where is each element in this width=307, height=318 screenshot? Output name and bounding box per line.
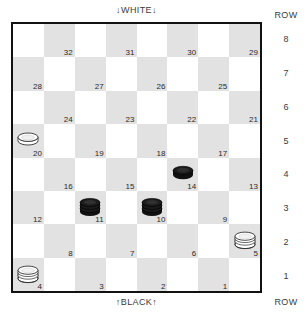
board-square-30[interactable]: 30 — [167, 24, 198, 57]
board-square-light — [198, 24, 229, 57]
board-square-light — [229, 124, 260, 157]
board-square-16[interactable]: 16 — [44, 158, 75, 191]
board-square-light — [13, 224, 44, 257]
white-king-piece[interactable] — [233, 230, 257, 248]
checkers-board[interactable]: 3231302928272625242322212019181716151413… — [11, 22, 262, 293]
square-number: 2 — [161, 282, 165, 291]
board-square-26[interactable]: 26 — [137, 57, 168, 90]
board-square-light — [75, 91, 106, 124]
board-square-3[interactable]: 3 — [75, 258, 106, 291]
square-number: 12 — [33, 215, 42, 224]
square-number: 6 — [192, 249, 196, 258]
square-number: 9 — [223, 215, 227, 224]
board-square-light — [167, 191, 198, 224]
board-square-light — [167, 124, 198, 157]
board-square-light — [44, 191, 75, 224]
board-square-light — [75, 24, 106, 57]
square-number: 27 — [95, 82, 104, 91]
white-king-piece[interactable] — [16, 264, 40, 282]
row-header-top: ROW — [268, 10, 304, 20]
board-square-light — [13, 158, 44, 191]
square-number: 22 — [187, 115, 196, 124]
board-square-light — [229, 191, 260, 224]
checkers-diagram: ↓WHITE↓ ROW 3231302928272625242322212019… — [0, 0, 307, 318]
board-square-5[interactable]: 5 — [229, 224, 260, 257]
row-label-4: 4 — [268, 158, 304, 192]
board-square-6[interactable]: 6 — [167, 224, 198, 257]
board-square-19[interactable]: 19 — [75, 124, 106, 157]
board-square-14[interactable]: 14 — [167, 158, 198, 191]
square-number: 28 — [33, 82, 42, 91]
row-label-5: 5 — [268, 124, 304, 158]
board-square-12[interactable]: 12 — [13, 191, 44, 224]
board-square-light — [137, 158, 168, 191]
board-square-9[interactable]: 9 — [198, 191, 229, 224]
square-number: 17 — [218, 149, 227, 158]
board-square-light — [106, 191, 137, 224]
board-square-light — [75, 158, 106, 191]
board-square-light — [44, 258, 75, 291]
row-label-8: 8 — [268, 22, 304, 56]
row-label-2: 2 — [268, 225, 304, 259]
board-square-light — [167, 57, 198, 90]
board-square-20[interactable]: 20 — [13, 124, 44, 157]
board-square-light — [106, 124, 137, 157]
square-number: 15 — [126, 182, 135, 191]
board-square-25[interactable]: 25 — [198, 57, 229, 90]
board-square-light — [44, 124, 75, 157]
square-number: 8 — [68, 249, 72, 258]
board-square-32[interactable]: 32 — [44, 24, 75, 57]
square-number: 19 — [95, 149, 104, 158]
square-number: 7 — [130, 249, 134, 258]
square-number: 10 — [156, 215, 165, 224]
board-square-24[interactable]: 24 — [44, 91, 75, 124]
board-square-light — [229, 57, 260, 90]
square-number: 24 — [64, 115, 73, 124]
board-square-22[interactable]: 22 — [167, 91, 198, 124]
board-square-15[interactable]: 15 — [106, 158, 137, 191]
board-square-light — [198, 224, 229, 257]
board-square-11[interactable]: 11 — [75, 191, 106, 224]
square-number: 1 — [223, 282, 227, 291]
square-number: 20 — [33, 149, 42, 158]
board-square-light — [106, 57, 137, 90]
square-number: 32 — [64, 48, 73, 57]
board-square-31[interactable]: 31 — [106, 24, 137, 57]
black-king-piece[interactable] — [140, 197, 164, 215]
board-square-light — [137, 91, 168, 124]
board-square-18[interactable]: 18 — [137, 124, 168, 157]
board-square-light — [229, 258, 260, 291]
black-man-piece[interactable] — [171, 164, 195, 182]
white-direction-label: ↓WHITE↓ — [11, 5, 262, 15]
board-square-2[interactable]: 2 — [137, 258, 168, 291]
square-number: 5 — [254, 249, 258, 258]
board-square-light — [13, 91, 44, 124]
square-number: 21 — [249, 115, 258, 124]
board-square-29[interactable]: 29 — [229, 24, 260, 57]
white-man-piece[interactable] — [16, 130, 40, 148]
row-label-7: 7 — [268, 56, 304, 90]
square-number: 3 — [99, 282, 103, 291]
board-square-8[interactable]: 8 — [44, 224, 75, 257]
board-square-4[interactable]: 4 — [13, 258, 44, 291]
board-square-10[interactable]: 10 — [137, 191, 168, 224]
board-square-7[interactable]: 7 — [106, 224, 137, 257]
black-direction-label: ↑BLACK↑ — [11, 297, 262, 307]
row-header-bottom: ROW — [268, 297, 304, 307]
square-number: 11 — [95, 215, 103, 224]
square-number: 13 — [249, 182, 258, 191]
board-square-light — [44, 57, 75, 90]
board-square-27[interactable]: 27 — [75, 57, 106, 90]
black-king-piece[interactable] — [78, 197, 102, 215]
board-square-28[interactable]: 28 — [13, 57, 44, 90]
square-number: 30 — [187, 48, 196, 57]
board-square-13[interactable]: 13 — [229, 158, 260, 191]
square-number: 31 — [126, 48, 135, 57]
board-square-1[interactable]: 1 — [198, 258, 229, 291]
board-square-21[interactable]: 21 — [229, 91, 260, 124]
board-square-23[interactable]: 23 — [106, 91, 137, 124]
board-square-light — [75, 224, 106, 257]
board-square-light — [198, 91, 229, 124]
board-square-17[interactable]: 17 — [198, 124, 229, 157]
board-square-light — [198, 158, 229, 191]
